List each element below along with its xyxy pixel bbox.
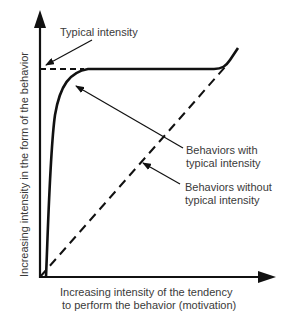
without-typical-label-line2: typical intensity xyxy=(185,194,272,207)
x-axis-label-line1: Increasing intensity of the tendency xyxy=(60,286,236,299)
typical-intensity-pointer-arrow xyxy=(46,40,92,65)
x-axis-label-line2: to perform the behavior (motivation) xyxy=(60,299,236,312)
without-typical-label: Behaviors without typical intensity xyxy=(185,181,272,207)
line-without-typical-intensity xyxy=(40,66,226,277)
with-typical-label-line2: typical intensity xyxy=(186,157,261,170)
y-axis-arrow-icon xyxy=(34,10,46,28)
x-axis-arrow-icon xyxy=(258,271,276,283)
x-axis xyxy=(39,271,276,283)
y-axis-label: Increasing intensity in the form of the … xyxy=(18,52,30,277)
with-typical-label-line1: Behaviors with xyxy=(186,144,261,157)
without-typical-label-line1: Behaviors without xyxy=(185,181,272,194)
with-typical-pointer-arrow xyxy=(76,86,183,148)
with-typical-label: Behaviors with typical intensity xyxy=(186,144,261,170)
without-typical-pointer-arrow xyxy=(143,163,180,184)
x-axis-label: Increasing intensity of the tendency to … xyxy=(60,286,236,312)
typical-intensity-label: Typical intensity xyxy=(60,26,138,39)
y-axis xyxy=(34,10,46,278)
